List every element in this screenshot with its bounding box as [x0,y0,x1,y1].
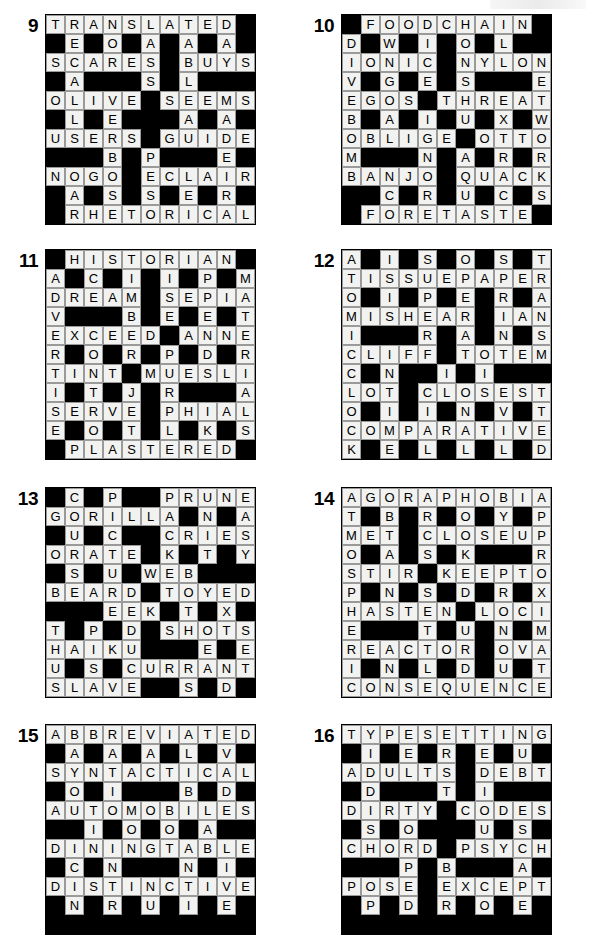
block-cell [475,72,494,91]
block-cell [236,678,255,697]
block-cell [160,915,179,934]
letter-cell: M [342,526,361,545]
block-cell [122,564,141,583]
letter-cell: B [103,148,122,167]
block-cell [84,602,103,621]
block-cell [84,526,103,545]
block-cell [236,15,255,34]
letter-cell: C [475,877,494,896]
letter-cell: P [361,896,380,915]
letter-cell: I [513,488,532,507]
block-cell [532,364,551,383]
letter-cell: T [418,640,437,659]
block-cell [179,421,198,440]
letter-cell: A [380,640,399,659]
letter-cell: B [198,839,217,858]
letter-cell: R [160,383,179,402]
letter-cell: T [342,507,361,526]
letter-cell: S [179,678,198,697]
letter-cell: B [84,725,103,744]
letter-cell: M [532,621,551,640]
block-cell [342,744,361,763]
letter-cell: E [122,725,141,744]
letter-cell: B [513,763,532,782]
letter-cell: L [418,659,437,678]
block-cell [342,820,361,839]
letter-cell: R [494,288,513,307]
letter-cell: I [361,744,380,763]
letter-cell: D [399,896,418,915]
letter-cell: I [380,345,399,364]
letter-cell: W [532,110,551,129]
block-cell [475,148,494,167]
letter-cell: A [65,72,84,91]
letter-cell: P [84,621,103,640]
block-cell [122,915,141,934]
letter-cell: T [494,129,513,148]
letter-cell: O [475,896,494,915]
block-cell [399,402,418,421]
block-cell [361,110,380,129]
block-cell [342,186,361,205]
letter-cell: V [103,91,122,110]
puzzle-number: 16 [304,724,334,745]
letter-cell: K [103,640,122,659]
letter-cell: R [532,269,551,288]
letter-cell: A [494,167,513,186]
letter-cell: G [418,129,437,148]
crossword-grid: TRANSLATEDEOAAASCARESBUYSASLOLIVESEEMSLE… [45,14,256,225]
block-cell [418,782,437,801]
letter-cell: T [475,421,494,440]
block-cell [437,915,456,934]
letter-cell: Y [475,53,494,72]
letter-cell: I [217,288,236,307]
block-cell [342,15,361,34]
crossword-puzzle-11: 11HISTORIANACIIPMDREAMSEPIAVBEETEXCEEDAN… [8,249,256,460]
block-cell [532,896,551,915]
block-cell [65,915,84,934]
letter-cell: I [46,383,65,402]
letter-cell: O [160,820,179,839]
letter-cell: E [494,91,513,110]
block-cell [513,364,532,383]
letter-cell: E [160,564,179,583]
letter-cell: K [342,440,361,459]
letter-cell: E [217,148,236,167]
block-cell [236,34,255,53]
letter-cell: D [418,15,437,34]
block-cell [179,820,198,839]
block-cell [141,858,160,877]
letter-cell: O [456,250,475,269]
letter-cell: A [475,269,494,288]
letter-cell: H [456,488,475,507]
block-cell [160,148,179,167]
block-cell [437,583,456,602]
letter-cell: L [494,34,513,53]
block-cell [475,583,494,602]
block-cell [437,820,456,839]
block-cell [399,34,418,53]
letter-cell: R [179,526,198,545]
block-cell [456,602,475,621]
letter-cell: I [103,507,122,526]
letter-cell: T [532,91,551,110]
letter-cell: E [103,205,122,224]
letter-cell: T [122,250,141,269]
letter-cell: C [342,364,361,383]
letter-cell: S [437,763,456,782]
letter-cell: V [494,402,513,421]
letter-cell: A [84,583,103,602]
letter-cell: C [65,488,84,507]
block-cell [217,72,236,91]
letter-cell: R [84,402,103,421]
letter-cell: S [236,421,255,440]
letter-cell: T [399,801,418,820]
letter-cell: U [513,526,532,545]
letter-cell: M [532,345,551,364]
letter-cell: V [103,678,122,697]
letter-cell: N [217,250,236,269]
letter-cell: E [361,526,380,545]
letter-cell: U [160,364,179,383]
letter-cell: E [361,640,380,659]
letter-cell: D [217,782,236,801]
